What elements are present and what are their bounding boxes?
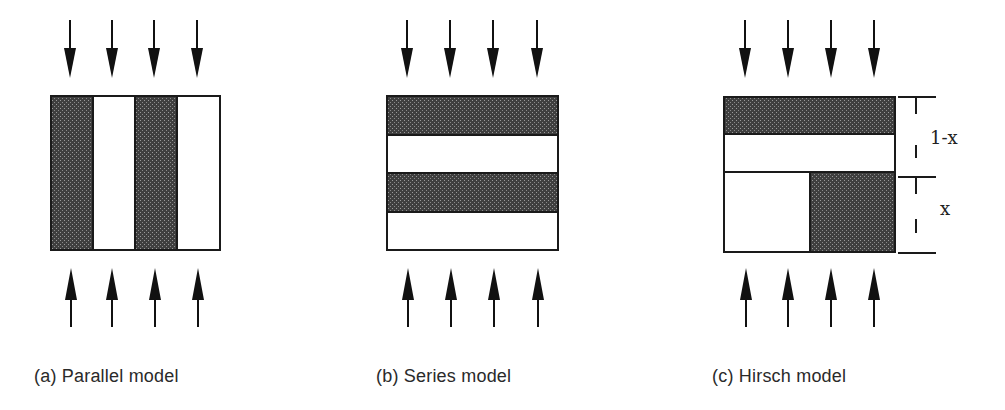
dimension-label-x: x [940,198,950,219]
arrow-down-icon [782,48,794,78]
arrow-down-icon [401,48,413,78]
arrow-up-icon [868,268,880,300]
arrow-up-icon [106,268,118,300]
arrow-up-icon [532,268,544,300]
top-arrows [739,20,880,78]
panel-hirsch-model [724,20,936,327]
arrow-up-icon [488,268,500,300]
caption-parallel-model: (a) Parallel model [34,366,179,387]
arrow-down-icon [106,48,118,78]
arrow-up-icon [192,268,204,300]
dimension-label-1-minus-x: 1-x [930,127,958,148]
top-arrows [64,20,203,78]
parallel-stripes [51,96,220,250]
series-stripes [387,96,558,250]
bottom-arrows [740,268,880,327]
bottom-arrows [65,268,204,327]
arrow-up-icon [782,268,794,300]
arrow-down-icon [868,48,880,78]
arrow-down-icon [739,48,751,78]
hirsch-blocks [724,97,895,252]
arrow-down-icon [487,48,499,78]
arrow-up-icon [445,268,457,300]
arrow-down-icon [64,48,76,78]
dimension-markers [898,97,936,253]
arrow-down-icon [531,48,543,78]
caption-hirsch-model: (c) Hirsch model [712,366,846,387]
arrow-up-icon [149,268,161,300]
arrow-down-icon [148,48,160,78]
arrow-up-icon [65,268,77,300]
arrow-up-icon [402,268,414,300]
panel-series-model [387,20,558,327]
arrow-up-icon [740,268,752,300]
top-arrows [401,20,543,78]
figure-canvas [0,0,1005,410]
arrow-down-icon [191,48,203,78]
caption-series-model: (b) Series model [376,366,511,387]
arrow-down-icon [825,48,837,78]
arrow-up-icon [825,268,837,300]
bottom-arrows [402,268,544,327]
arrow-down-icon [444,48,456,78]
panel-parallel-model [51,20,220,327]
